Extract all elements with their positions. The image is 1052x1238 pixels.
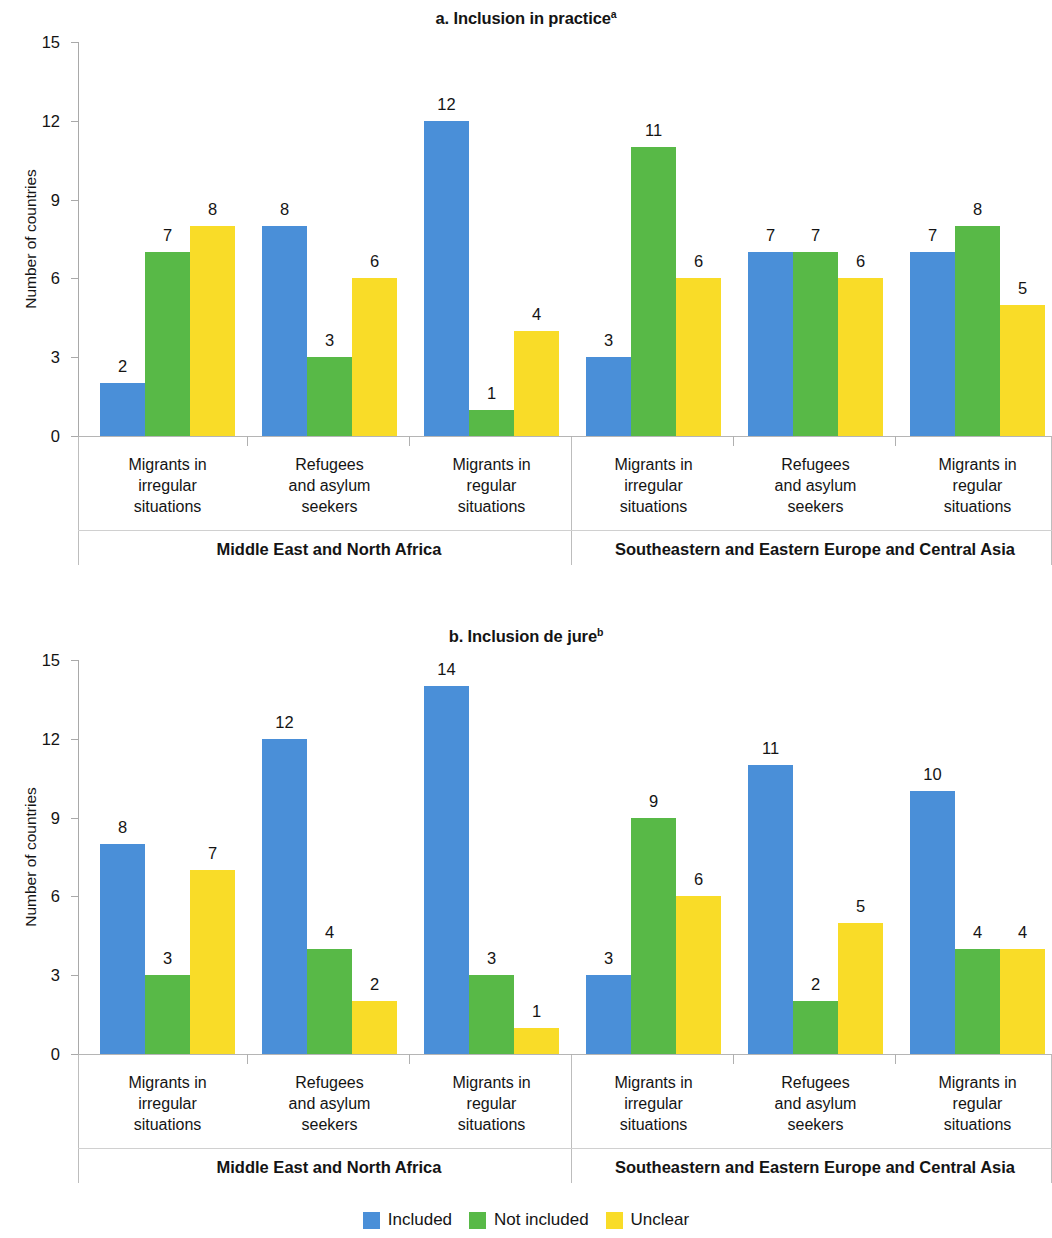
panel-b-y-tick-mark: [71, 818, 78, 819]
legend-item-included[interactable]: Included: [363, 1210, 452, 1230]
x-axis-category-label: Migrants inregularsituations: [897, 454, 1052, 517]
legend-swatch-unclear-icon: [606, 1212, 623, 1229]
panel-b-y-tick-label: 12: [26, 729, 60, 748]
panel-b-y-tick-mark: [71, 1054, 78, 1055]
panel-a-y-tick-label: 9: [26, 190, 60, 209]
panel-b-y-tick-mark: [71, 975, 78, 976]
x-axis-category-line: Migrants in: [573, 1072, 735, 1093]
bar-value-label: 12: [275, 713, 293, 732]
bar-value-label: 11: [645, 121, 662, 140]
x-axis-category-label: Refugeesand asylumseekers: [249, 454, 411, 517]
bar-included: [100, 844, 145, 1054]
x-axis-category-line: irregular: [87, 1093, 249, 1114]
legend-item-unclear[interactable]: Unclear: [606, 1210, 690, 1230]
x-axis-category-line: situations: [897, 496, 1052, 517]
bar-value-label: 2: [811, 975, 820, 994]
panel-a-title-superscript: a: [611, 8, 617, 20]
panel-a-y-tick-mark: [71, 121, 78, 122]
category-separator-tick: [409, 1054, 410, 1064]
bar-value-label: 8: [280, 200, 289, 219]
bar-unclear: [1000, 305, 1045, 436]
panel-a-y-axis-title: Number of countries: [22, 42, 40, 436]
bar-unclear: [352, 1001, 397, 1054]
x-axis-category-line: situations: [411, 496, 573, 517]
bar-value-label: 1: [532, 1002, 541, 1021]
x-axis-category-line: and asylum: [249, 1093, 411, 1114]
region-separator-line: [78, 437, 79, 565]
bar-unclear: [838, 278, 883, 436]
panel-a-plot-area: 03691215278Migrants inirregularsituation…: [78, 42, 1052, 436]
bar-value-label: 10: [923, 765, 941, 784]
bar-unclear: [190, 870, 235, 1054]
panel-b-y-tick-mark: [71, 660, 78, 661]
category-separator-tick: [247, 1054, 248, 1064]
x-axis-category-line: Refugees: [735, 1072, 897, 1093]
x-axis-category-line: irregular: [573, 475, 735, 496]
bar-value-label: 8: [208, 200, 217, 219]
bar-value-label: 4: [532, 305, 541, 324]
bar-value-label: 8: [973, 200, 982, 219]
x-axis-category-line: Refugees: [735, 454, 897, 475]
panel-b-y-tick-mark: [71, 739, 78, 740]
bar-included: [424, 686, 469, 1054]
bar-unclear: [514, 331, 559, 436]
x-axis-category-line: Migrants in: [897, 1072, 1052, 1093]
x-axis-category-label: Refugeesand asylumseekers: [735, 454, 897, 517]
bar-included: [262, 226, 307, 436]
x-axis-category-line: irregular: [87, 475, 249, 496]
x-axis-category-line: situations: [87, 1114, 249, 1135]
region-separator-line: [571, 1055, 572, 1183]
bar-not-included: [307, 357, 352, 436]
bar-not-included: [145, 252, 190, 436]
bar-not-included: [145, 975, 190, 1054]
category-separator-tick: [733, 1054, 734, 1064]
bar-unclear: [676, 278, 721, 436]
panel-b-baseline: [78, 1054, 1052, 1055]
legend-swatch-included-icon: [363, 1212, 380, 1229]
panel-b-y-tick-label: 6: [26, 887, 60, 906]
bar-value-label: 14: [437, 660, 455, 679]
bar-not-included: [793, 1001, 838, 1054]
bar-not-included: [469, 975, 514, 1054]
category-separator-tick: [247, 436, 248, 446]
x-axis-category-line: seekers: [249, 1114, 411, 1135]
x-axis-category-line: Migrants in: [411, 1072, 573, 1093]
category-separator-tick: [409, 436, 410, 446]
x-axis-category-line: Refugees: [249, 1072, 411, 1093]
panel-a-y-tick-label: 3: [26, 348, 60, 367]
bar-value-label: 4: [973, 923, 982, 942]
legend-item-not-included[interactable]: Not included: [469, 1210, 589, 1230]
x-axis-category-line: irregular: [573, 1093, 735, 1114]
bar-included: [586, 357, 631, 436]
bar-value-label: 4: [1018, 923, 1027, 942]
region-separator-line: [78, 1055, 79, 1183]
x-axis-category-label: Migrants inirregularsituations: [87, 454, 249, 517]
panel-b-title-superscript: b: [597, 626, 603, 638]
bar-not-included: [631, 147, 676, 436]
panel-b-y-axis-title: Number of countries: [22, 660, 40, 1054]
category-separator-tick: [895, 436, 896, 446]
panel-b-y-axis-line: [78, 660, 79, 1054]
x-axis-category-line: and asylum: [249, 475, 411, 496]
bar-value-label: 7: [766, 226, 775, 245]
x-axis-category-line: and asylum: [735, 1093, 897, 1114]
x-axis-category-label: Migrants inregularsituations: [411, 1072, 573, 1135]
x-axis-category-line: Migrants in: [573, 454, 735, 475]
category-separator-tick: [733, 436, 734, 446]
panel-a-plot: Number of countries03691215278Migrants i…: [0, 42, 1052, 582]
chart-legend: IncludedNot includedUnclear: [0, 1210, 1052, 1230]
bar-not-included: [955, 949, 1000, 1054]
x-axis-category-line: seekers: [249, 496, 411, 517]
panel-a-y-tick-mark: [71, 200, 78, 201]
x-axis-category-line: situations: [87, 496, 249, 517]
bar-value-label: 3: [163, 949, 172, 968]
panel-a-y-tick-mark: [71, 42, 78, 43]
x-axis-category-line: Migrants in: [87, 1072, 249, 1093]
region-label: Southeastern and Eastern Europe and Cent…: [615, 1158, 1015, 1177]
region-separator-line: [571, 437, 572, 565]
panel-a-y-tick-label: 12: [26, 111, 60, 130]
region-label: Middle East and North Africa: [217, 1158, 442, 1177]
panel-a-y-tick-label: 6: [26, 269, 60, 288]
bar-unclear: [514, 1028, 559, 1054]
bar-not-included: [307, 949, 352, 1054]
